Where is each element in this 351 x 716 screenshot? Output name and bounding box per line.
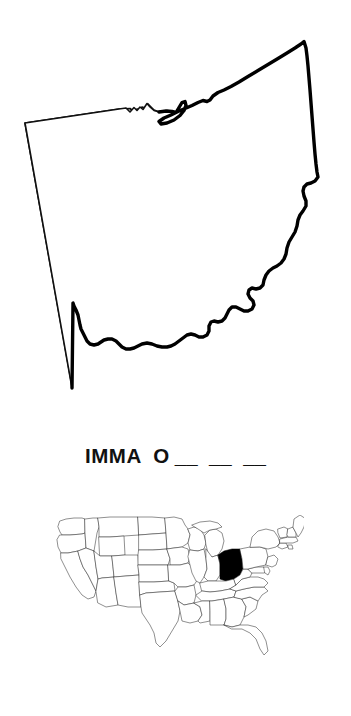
state-rhode-island xyxy=(288,545,293,549)
ohio-fill xyxy=(25,42,318,389)
us-locator-svg xyxy=(52,515,304,665)
state-washington xyxy=(58,518,85,535)
state-kansas xyxy=(138,565,169,582)
united-states-locator-map xyxy=(52,515,304,665)
state-texas xyxy=(140,591,180,647)
state-alabama xyxy=(210,599,226,625)
state-north-dakota xyxy=(138,517,166,535)
state-colorado xyxy=(112,555,139,577)
us-states-group xyxy=(57,515,304,655)
state-connecticut xyxy=(278,543,288,549)
answer-blanks: __ __ __ xyxy=(175,446,266,467)
state-idaho xyxy=(85,518,99,551)
state-new-mexico xyxy=(114,575,141,607)
state-south-dakota xyxy=(139,533,167,550)
fill-in-the-blank-prompt: IMMA O __ __ __ xyxy=(0,438,351,474)
ohio-state-outline xyxy=(0,22,351,412)
state-new-york xyxy=(250,529,280,549)
ohio-shape-group xyxy=(25,42,318,389)
state-nebraska xyxy=(138,549,170,565)
state-massachusetts xyxy=(280,537,298,543)
state-minnesota xyxy=(165,517,190,549)
state-wyoming xyxy=(99,536,125,556)
state-florida xyxy=(224,625,268,655)
state-pennsylvania xyxy=(240,547,268,569)
ohio-outline-svg xyxy=(0,22,351,412)
worksheet-page: IMMA O __ __ __ xyxy=(0,0,351,716)
state-montana xyxy=(98,517,139,537)
state-delaware xyxy=(264,567,270,575)
state-vermont xyxy=(278,527,288,538)
state-iowa xyxy=(167,547,190,565)
state-georgia xyxy=(224,597,246,627)
prompt-label: IMMA O xyxy=(85,446,170,467)
